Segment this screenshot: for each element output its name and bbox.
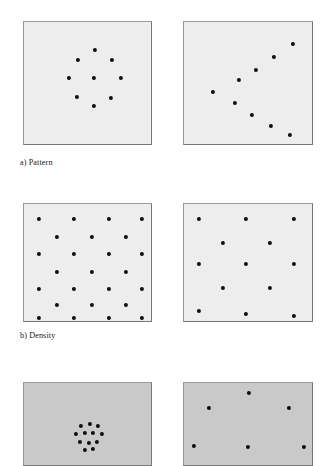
distribution-tight-cluster bbox=[23, 382, 152, 466]
point-pattern-figure: a) Patternb) Density bbox=[0, 0, 323, 466]
data-point bbox=[246, 444, 250, 448]
data-point bbox=[246, 390, 250, 394]
data-point bbox=[207, 406, 211, 410]
data-point bbox=[192, 444, 196, 448]
data-point bbox=[79, 424, 83, 428]
data-point bbox=[95, 439, 99, 443]
data-point bbox=[86, 440, 90, 444]
data-point bbox=[287, 406, 291, 410]
data-point bbox=[82, 431, 86, 435]
data-point bbox=[87, 422, 91, 426]
data-point bbox=[91, 431, 95, 435]
data-point bbox=[91, 447, 95, 451]
data-point bbox=[96, 424, 100, 428]
panel-row-row-c bbox=[0, 0, 323, 466]
data-point bbox=[78, 439, 82, 443]
distribution-spread-out bbox=[183, 382, 313, 466]
data-point bbox=[302, 444, 306, 448]
data-point bbox=[82, 447, 86, 451]
data-point bbox=[74, 431, 78, 435]
data-point bbox=[99, 432, 103, 436]
